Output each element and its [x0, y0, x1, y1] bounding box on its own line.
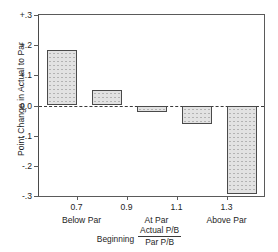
x-axis-tick [177, 196, 178, 200]
y-axis-tick [34, 136, 39, 137]
plot-area: +.3+.2+.10.0-.1-.2-.30.70.91.11.3Below P… [38, 14, 265, 197]
y-axis-tick [34, 15, 39, 16]
chart-bar [182, 106, 212, 125]
x-axis-tick [227, 196, 228, 200]
y-axis-tick [34, 75, 39, 76]
x-axis-tick-label: 0.9 [121, 202, 133, 212]
y-axis-tick [34, 166, 39, 167]
y-axis-tick [34, 45, 39, 46]
chart-bar [227, 106, 257, 195]
x-axis-title-numerator: Actual P/B [138, 226, 181, 237]
y-axis-tick-label: +.3 [20, 10, 32, 20]
y-axis-tick-label: -.1 [22, 131, 32, 141]
chart-bar [137, 106, 167, 112]
x-axis-group-label: Above Par [206, 215, 246, 225]
x-axis-group-label: At Par [145, 215, 169, 225]
y-axis-tick-label: -.3 [22, 191, 32, 201]
y-axis-tick [34, 106, 39, 107]
chart-figure: Point Change in Actual to Par +.3+.2+.10… [0, 0, 278, 252]
x-axis-title-fraction: Actual P/B Par P/B [138, 226, 181, 247]
x-axis-tick-label: 1.1 [171, 202, 183, 212]
x-axis-title: Beginning Actual P/B Par P/B [0, 226, 278, 247]
x-axis-group-label: Below Par [62, 215, 101, 225]
x-axis-title-prefix: Beginning [97, 229, 134, 244]
x-axis-title-denominator: Par P/B [143, 237, 176, 247]
chart-bar [47, 50, 77, 106]
y-axis-tick-label: 0.0 [20, 101, 32, 111]
y-axis-tick [34, 196, 39, 197]
chart-bar [92, 90, 122, 105]
y-axis-tick-label: +.2 [20, 40, 32, 50]
y-axis-tick-label: +.1 [20, 70, 32, 80]
y-axis-tick-label: -.2 [22, 161, 32, 171]
x-axis-tick [127, 196, 128, 200]
x-axis-tick-label: 1.3 [221, 202, 233, 212]
x-axis-tick [77, 196, 78, 200]
x-axis-tick-label: 0.7 [71, 202, 83, 212]
